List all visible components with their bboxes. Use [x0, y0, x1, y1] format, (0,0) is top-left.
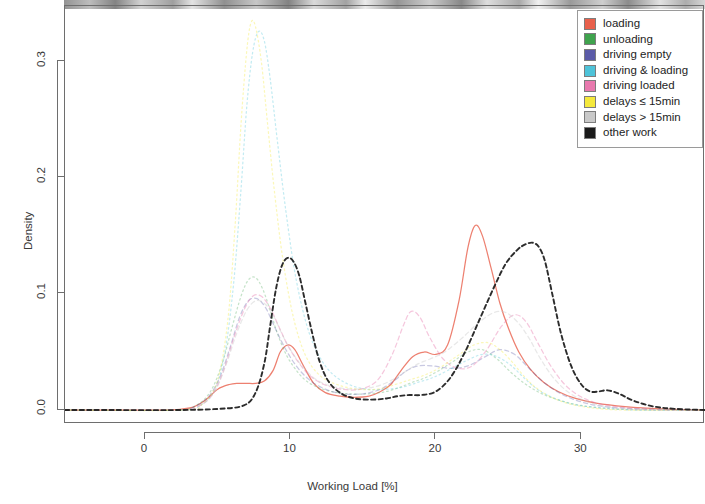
y-axis-tick-label: 0.0	[35, 392, 47, 422]
series-line	[65, 295, 705, 411]
legend-color-swatch	[584, 80, 596, 92]
legend-item-label: loading	[603, 18, 640, 30]
legend-item: loading	[584, 16, 698, 32]
y-axis-title: Density	[22, 212, 34, 250]
legend-item-label: unloading	[603, 34, 653, 46]
x-axis-tick-label: 20	[415, 442, 455, 454]
legend-item: delays > 15min	[584, 110, 698, 126]
x-axis-tick-label: 0	[124, 442, 164, 454]
legend-item: driving loaded	[584, 78, 698, 94]
x-axis-tick-label: 30	[560, 442, 600, 454]
legend-color-swatch	[584, 18, 596, 30]
scan-artifact-band-left	[0, 0, 64, 9]
legend-color-swatch	[584, 111, 596, 123]
legend-item-label: delays ≤ 15min	[603, 96, 680, 108]
legend-color-swatch	[584, 96, 596, 108]
y-axis-line	[57, 61, 58, 409]
y-axis-tick	[57, 176, 64, 177]
y-axis-tick	[57, 409, 64, 410]
x-axis-tick	[144, 432, 145, 439]
legend-color-swatch	[584, 33, 596, 45]
x-axis-tick-label: 10	[269, 442, 309, 454]
legend-item-label: driving & loading	[603, 65, 688, 77]
legend-item: driving & loading	[584, 63, 698, 79]
x-axis-title: Working Load [%]	[0, 480, 705, 492]
legend-item: other work	[584, 125, 698, 141]
legend-color-swatch	[584, 127, 596, 139]
legend-box: loadingunloadingdriving emptydriving & l…	[577, 10, 703, 148]
y-axis-tick-label: 0.2	[35, 160, 47, 190]
legend-color-swatch	[584, 65, 596, 77]
legend-item: unloading	[584, 32, 698, 48]
legend-item-label: delays > 15min	[603, 112, 681, 124]
y-axis-tick	[57, 292, 64, 293]
y-axis-tick-label: 0.1	[35, 276, 47, 306]
series-line	[65, 243, 705, 411]
legend-color-swatch	[584, 49, 596, 61]
chart-screenshot: 0.00.10.20.3Density0102030 Working Load …	[0, 0, 705, 504]
legend-item-label: driving empty	[603, 49, 671, 61]
x-axis-line	[144, 432, 580, 433]
y-axis-tick-label: 0.3	[35, 44, 47, 74]
legend-item: driving empty	[584, 47, 698, 63]
series-line	[65, 300, 705, 410]
legend-item-label: other work	[603, 127, 657, 139]
legend-item: delays ≤ 15min	[584, 94, 698, 110]
legend-item-label: driving loaded	[603, 80, 675, 92]
x-axis-tick	[434, 432, 435, 439]
y-axis-tick	[57, 60, 64, 61]
series-line	[65, 298, 705, 410]
x-axis-tick	[289, 432, 290, 439]
series-line	[65, 225, 705, 410]
x-axis-tick	[580, 432, 581, 439]
